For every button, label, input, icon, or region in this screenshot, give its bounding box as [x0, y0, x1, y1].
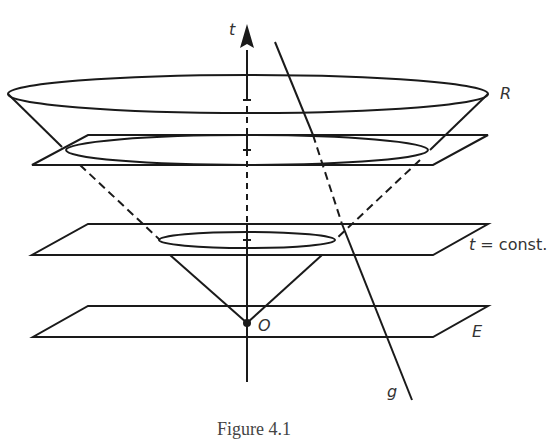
base-plane-label: E: [472, 324, 482, 340]
worldline-label: g: [387, 384, 397, 400]
time-axis-arrow-icon: [240, 24, 254, 48]
rim-label: R: [500, 86, 511, 102]
time-axis-label: t: [229, 22, 235, 38]
worldline-g: [275, 42, 313, 135]
plane-t-const: [32, 224, 488, 255]
plane-label: t = const.: [469, 237, 547, 253]
figure-4-1: t R t = const. O E g Figure 4.1: [0, 0, 556, 447]
figure-caption: Figure 4.1: [217, 420, 291, 438]
origin-label: O: [258, 318, 271, 334]
origin-point: [243, 319, 251, 327]
light-cone-diagram: [0, 0, 556, 447]
